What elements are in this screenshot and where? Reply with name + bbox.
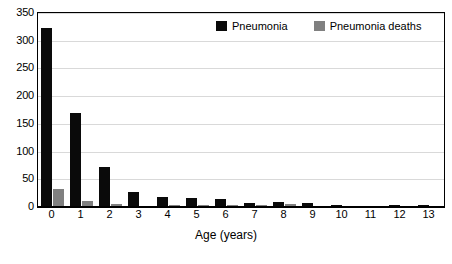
bar-group-age-0 bbox=[38, 13, 67, 207]
x-tick-label-6: 6 bbox=[211, 208, 240, 220]
y-tick-label-300: 300 bbox=[2, 35, 34, 46]
bar-group-age-1 bbox=[67, 13, 96, 207]
x-axis: 012345678910111213 bbox=[37, 208, 443, 224]
bar-pneumonia-age-2 bbox=[99, 167, 110, 207]
bar-group-age-3 bbox=[125, 13, 154, 207]
y-tick-label-100: 100 bbox=[2, 146, 34, 157]
y-axis: 050100150200250300350 bbox=[0, 0, 34, 264]
bar-group-age-9 bbox=[299, 13, 328, 207]
pneumonia-by-age-bar-chart: 050100150200250300350 Pneumonia Pneumoni… bbox=[0, 0, 452, 264]
x-tick-label-12: 12 bbox=[385, 208, 414, 220]
plot-area: Pneumonia Pneumonia deaths bbox=[37, 12, 445, 208]
chart-legend: Pneumonia Pneumonia deaths bbox=[216, 19, 421, 33]
bar-group-age-13 bbox=[415, 13, 444, 207]
bar-pneumonia-deaths-age-0 bbox=[53, 189, 64, 207]
x-tick-label-7: 7 bbox=[240, 208, 269, 220]
y-tick-label-200: 200 bbox=[2, 90, 34, 101]
bar-group-age-6 bbox=[212, 13, 241, 207]
bar-group-age-4 bbox=[154, 13, 183, 207]
bar-group-age-5 bbox=[183, 13, 212, 207]
x-tick-label-0: 0 bbox=[37, 208, 66, 220]
y-tick-label-50: 50 bbox=[2, 173, 34, 184]
y-tick-label-150: 150 bbox=[2, 118, 34, 129]
x-tick-label-1: 1 bbox=[66, 208, 95, 220]
x-tick-label-4: 4 bbox=[153, 208, 182, 220]
bars-layer bbox=[38, 13, 444, 207]
legend-label-pneumonia: Pneumonia bbox=[232, 21, 288, 32]
x-tick-label-8: 8 bbox=[269, 208, 298, 220]
legend-swatch-pneumonia-deaths bbox=[314, 21, 325, 31]
x-tick-label-9: 9 bbox=[298, 208, 327, 220]
x-tick-label-5: 5 bbox=[182, 208, 211, 220]
y-tick-label-350: 350 bbox=[2, 7, 34, 18]
y-tick-label-250: 250 bbox=[2, 62, 34, 73]
x-tick-label-13: 13 bbox=[414, 208, 443, 220]
bar-group-age-2 bbox=[96, 13, 125, 207]
bar-group-age-11 bbox=[357, 13, 386, 207]
bar-group-age-10 bbox=[328, 13, 357, 207]
x-tick-label-10: 10 bbox=[327, 208, 356, 220]
x-tick-label-11: 11 bbox=[356, 208, 385, 220]
x-axis-baseline bbox=[38, 206, 444, 207]
x-tick-label-2: 2 bbox=[95, 208, 124, 220]
bar-pneumonia-age-0 bbox=[41, 28, 52, 207]
bar-group-age-8 bbox=[270, 13, 299, 207]
legend-item-pneumonia-deaths: Pneumonia deaths bbox=[314, 21, 422, 32]
legend-label-pneumonia-deaths: Pneumonia deaths bbox=[330, 21, 422, 32]
y-tick-label-0: 0 bbox=[2, 201, 34, 212]
bar-pneumonia-age-3 bbox=[128, 192, 139, 207]
bar-pneumonia-age-1 bbox=[70, 113, 81, 207]
plot-inner: Pneumonia Pneumonia deaths bbox=[38, 13, 444, 207]
bar-group-age-7 bbox=[241, 13, 270, 207]
legend-item-pneumonia: Pneumonia bbox=[216, 21, 288, 32]
legend-swatch-pneumonia bbox=[216, 21, 227, 31]
x-axis-title: Age (years) bbox=[0, 228, 452, 242]
x-tick-label-3: 3 bbox=[124, 208, 153, 220]
bar-group-age-12 bbox=[386, 13, 415, 207]
